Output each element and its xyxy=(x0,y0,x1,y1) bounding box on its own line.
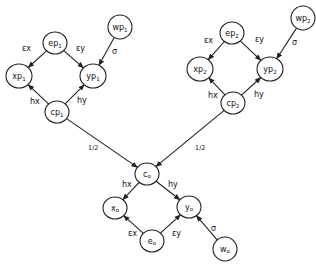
nodes-layer: ep1wp1xp1yp1cp1ep2wp2xp2yp2cp2coxoyoeowo xyxy=(6,6,315,261)
path-diagram: εxεyσhxhyεxεyσhxhy1/21/2hxhyεxεyσ ep1wp1… xyxy=(0,0,316,270)
edges-layer xyxy=(28,28,296,240)
edge-cp2-to-co xyxy=(156,110,224,166)
edge-label: hy xyxy=(254,90,264,99)
edge-label: εy xyxy=(255,35,264,44)
edge-label: 1/2 xyxy=(88,144,98,152)
node-yp1: yp1 xyxy=(80,64,106,88)
edge-label: hx xyxy=(208,91,218,100)
edge-label: εx xyxy=(128,229,137,238)
edge-label: εx xyxy=(22,44,31,53)
edge-label: 1/2 xyxy=(195,144,205,152)
edge-label: σ xyxy=(112,47,117,56)
node-cp1: cp1 xyxy=(45,101,69,123)
edge-cp1-to-co xyxy=(67,119,138,168)
edge-label: σ xyxy=(211,224,216,233)
node-cp2: cp2 xyxy=(221,92,245,114)
node-wp1: wp1 xyxy=(108,15,132,39)
edge-label: εy xyxy=(76,44,85,53)
edge-label: εx xyxy=(204,36,213,45)
node-xo: xo xyxy=(103,197,127,219)
node-ep1: ep1 xyxy=(43,32,67,54)
edge-label: σ xyxy=(292,38,297,47)
edge-label: εy xyxy=(172,229,181,238)
edge-labels-layer: εxεyσhxhyεxεyσhxhy1/21/2hxhyεxεyσ xyxy=(22,35,297,238)
node-xp1: xp1 xyxy=(6,64,32,88)
node-yo: yo xyxy=(177,196,201,218)
edge-ep1-to-yp1 xyxy=(64,51,84,68)
node-ep2: ep2 xyxy=(220,22,244,44)
edge-label: hy xyxy=(168,180,178,189)
node-wo: wo xyxy=(213,237,237,261)
edge-label: hy xyxy=(77,96,87,105)
node-eo: eo xyxy=(140,230,164,252)
edge-label: hx xyxy=(30,97,40,106)
node-yp2: yp2 xyxy=(257,57,283,81)
edge-ep1-to-xp1 xyxy=(28,51,46,68)
node-xp2: xp2 xyxy=(187,57,213,81)
edge-label: hx xyxy=(122,180,132,189)
node-wp2: wp2 xyxy=(291,6,315,30)
node-co: co xyxy=(135,163,159,185)
